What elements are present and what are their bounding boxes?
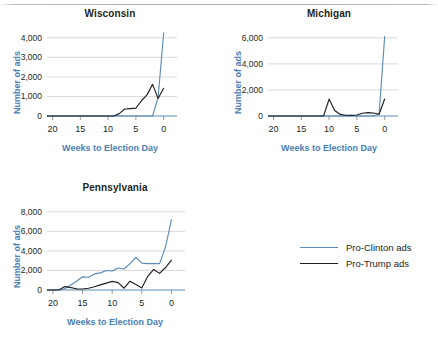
y-tick-label-pennsylvania-1: 2,000: [0, 265, 42, 275]
legend-swatch-pro-clinton: [300, 247, 338, 248]
legend-item-pro-trump: Pro-Trump ads: [300, 255, 411, 271]
legend-swatch-pro-trump: [300, 263, 338, 264]
y-tick-label-pennsylvania-4: 8,000: [0, 207, 42, 217]
x-axis-label-michigan: Weeks to Election Day: [220, 143, 438, 153]
x-axis-label-wisconsin: Weeks to Election Day: [0, 143, 220, 153]
x-axis-label-pennsylvania: Weeks to Election Day: [0, 317, 230, 327]
chart-panel-michigan: MichiganNumber of adsWeeks to Election D…: [220, 8, 438, 168]
plot-area-pennsylvania: [47, 204, 189, 300]
top-divider-rule: [0, 4, 438, 5]
y-tick-label-pennsylvania-0: 0: [0, 285, 42, 295]
y-tick-label-pennsylvania-2: 4,000: [0, 246, 42, 256]
chart-legend: Pro-Clinton ads Pro-Trump ads: [300, 239, 411, 271]
legend-item-pro-clinton: Pro-Clinton ads: [300, 239, 411, 255]
y-tick-label-wisconsin-2: 2,000: [0, 72, 42, 82]
plot-area-michigan: [268, 30, 402, 126]
legend-label-pro-trump: Pro-Trump ads: [346, 258, 409, 269]
y-tick-label-michigan-2: 4,000: [220, 59, 263, 69]
plot-area-wisconsin: [47, 30, 181, 126]
chart-panel-wisconsin: WisconsinNumber of adsWeeks to Election …: [0, 8, 220, 168]
series-line-pro-trump-ads: [47, 260, 171, 290]
y-tick-label-michigan-3: 6,000: [220, 33, 263, 43]
series-line-pro-trump-ads: [268, 99, 385, 116]
series-line-pro-clinton-ads: [268, 37, 385, 116]
series-line-pro-clinton-ads: [47, 33, 164, 116]
legend-label-pro-clinton: Pro-Clinton ads: [346, 242, 411, 253]
series-line-pro-trump-ads: [47, 84, 164, 116]
y-tick-label-wisconsin-3: 3,000: [0, 52, 42, 62]
y-tick-label-wisconsin-1: 1,000: [0, 91, 42, 101]
chart-title-pennsylvania: Pennsylvania: [0, 182, 230, 193]
chart-title-michigan: Michigan: [220, 8, 438, 19]
chart-panel-pennsylvania: PennsylvaniaNumber of adsWeeks to Electi…: [0, 182, 230, 346]
chart-title-wisconsin: Wisconsin: [0, 8, 220, 19]
y-tick-label-pennsylvania-3: 6,000: [0, 226, 42, 236]
y-tick-label-michigan-1: 2,000: [220, 85, 263, 95]
y-tick-label-wisconsin-0: 0: [0, 111, 42, 121]
y-tick-label-michigan-0: 0: [220, 111, 263, 121]
series-line-pro-clinton-ads: [47, 220, 171, 290]
y-tick-label-wisconsin-4: 4,000: [0, 33, 42, 43]
